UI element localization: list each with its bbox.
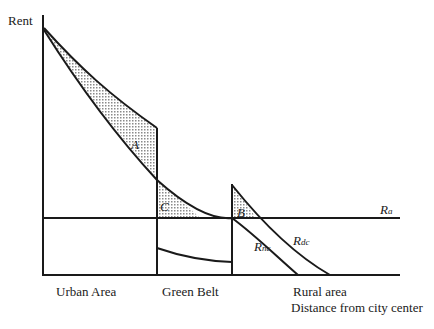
area-a-shading: [45, 30, 157, 178]
zone-label-green-belt: Green Belt: [162, 285, 219, 298]
rnc-label-sub: nc: [262, 243, 271, 253]
rdc-label-sub: dc: [301, 237, 310, 247]
green-belt-rent-curve: [157, 248, 232, 262]
ra-label-sub: a: [388, 206, 393, 216]
area-b-label: B: [237, 206, 245, 219]
rnc-label-main: R: [254, 239, 262, 254]
x-axis-label: Distance from city center: [291, 301, 423, 314]
rnc-label: Rnc: [254, 240, 270, 253]
y-axis-label: Rent: [8, 14, 33, 27]
zone-label-urban: Urban Area: [56, 285, 116, 298]
rdc-label: Rdc: [293, 234, 309, 247]
area-a-label: A: [131, 138, 139, 151]
bid-rent-diagram: [0, 0, 434, 329]
ra-label-main: R: [380, 202, 388, 217]
area-c-label: C: [160, 200, 169, 213]
zone-label-rural: Rural area: [293, 285, 347, 298]
ra-label: Ra: [380, 203, 392, 216]
rdc-label-main: R: [293, 233, 301, 248]
